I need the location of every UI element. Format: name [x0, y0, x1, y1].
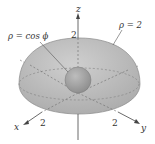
y-axis [118, 112, 137, 122]
x-arrow-icon [23, 120, 29, 125]
z-tick-label: 2 [71, 30, 77, 40]
y-axis-label: y [140, 123, 147, 133]
hemisphere-diagram: z 2 ρ = cos ϕ ρ = 2 x 2 y 2 [0, 0, 155, 144]
inner-surface-label: ρ = cos ϕ [7, 31, 48, 41]
leader-outer [113, 30, 122, 45]
x-tick-label: 2 [40, 118, 46, 128]
z-axis-label: z [75, 4, 81, 14]
outer-surface-label: ρ = 2 [118, 20, 142, 30]
x-axis-label: x [14, 122, 19, 132]
inner-sphere [65, 67, 91, 93]
y-tick-label: 2 [112, 118, 118, 128]
y-arrow-icon [134, 119, 140, 124]
